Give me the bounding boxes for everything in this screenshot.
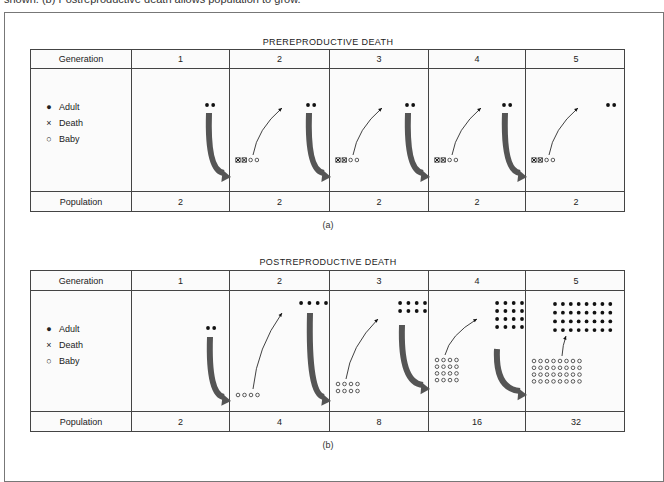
generation-5-diagram <box>532 302 612 383</box>
adult-dot <box>601 302 605 306</box>
big-arrowhead-icon <box>221 170 231 182</box>
adult-dot <box>407 309 411 313</box>
baby-circle <box>571 380 575 384</box>
baby-circle <box>565 373 569 377</box>
population-row: Population22222 <box>31 192 624 212</box>
population-row: Population2481632 <box>31 412 624 432</box>
reproduction-arrow-line <box>549 108 578 155</box>
adult-dot <box>423 309 427 313</box>
baby-circle <box>442 372 446 376</box>
baby-circle <box>552 373 556 377</box>
adult-dot <box>512 325 516 329</box>
panel-a-table: Generation12345 ●Adult×Death○Baby Popula… <box>30 49 625 212</box>
baby-circle <box>552 380 556 384</box>
generation-1-diagram <box>205 103 231 182</box>
baby-circle <box>349 158 353 162</box>
panel-b-label: (b) <box>30 440 626 450</box>
baby-circle <box>571 359 575 363</box>
death-cross-icon <box>236 158 240 162</box>
adult-dot <box>212 326 216 330</box>
baby-circle <box>435 372 439 376</box>
adult-dot <box>577 328 581 332</box>
adult-dot <box>608 328 612 332</box>
baby-circle <box>355 158 359 162</box>
population-value: 4 <box>230 412 330 432</box>
baby-circle <box>558 366 562 370</box>
adult-dot <box>423 301 427 305</box>
baby-circle <box>435 378 439 382</box>
baby-circle <box>571 366 575 370</box>
baby-circle <box>545 373 549 377</box>
adult-dot <box>553 302 557 306</box>
baby-circle <box>545 380 549 384</box>
generation-4-diagram <box>435 301 527 400</box>
baby-circle <box>435 358 439 362</box>
baby-circle <box>551 158 555 162</box>
population-diagram <box>31 69 626 192</box>
baby-circle <box>442 378 446 382</box>
generation-header-label: Generation <box>31 271 132 290</box>
baby-circle <box>249 158 253 162</box>
generation-transition-arrow <box>505 113 520 173</box>
generation-1-diagram <box>206 326 231 406</box>
adult-dot <box>561 320 565 324</box>
panel-b-table: Generation12345 ●Adult×Death○Baby Popula… <box>30 270 625 432</box>
population-value: 16 <box>429 412 526 432</box>
adult-dot <box>205 103 209 107</box>
death-cross-icon <box>532 158 536 162</box>
death-cross-icon <box>441 158 445 162</box>
population-value: 2 <box>429 192 526 212</box>
baby-circle <box>255 158 259 162</box>
big-arrowhead-icon <box>221 394 231 406</box>
adult-dot <box>561 311 565 315</box>
adult-dot <box>495 325 499 329</box>
adult-dot <box>569 302 573 306</box>
baby-circle <box>249 393 253 397</box>
baby-circle <box>578 366 582 370</box>
adult-dot <box>561 328 565 332</box>
adult-dot <box>299 301 303 305</box>
adult-dot <box>520 301 524 305</box>
baby-circle <box>565 359 569 363</box>
adult-dot <box>593 328 597 332</box>
big-arrowhead-icon <box>518 388 527 400</box>
adult-dot <box>308 301 312 305</box>
generation-transition-arrow <box>310 313 324 397</box>
population-value: 8 <box>330 412 429 432</box>
adult-dot <box>553 320 557 324</box>
baby-circle <box>356 389 360 393</box>
adult-dot <box>312 103 316 107</box>
generation-number: 3 <box>330 50 429 68</box>
baby-circle <box>532 380 536 384</box>
baby-circle <box>349 389 353 393</box>
big-arrowhead-icon <box>421 382 430 394</box>
adult-dot <box>512 301 516 305</box>
adult-dot <box>608 311 612 315</box>
population-label: Population <box>31 192 132 212</box>
baby-circle <box>435 365 439 369</box>
baby-circle <box>336 389 340 393</box>
baby-circle <box>552 366 556 370</box>
adult-dot <box>495 317 499 321</box>
adult-dot <box>495 301 499 305</box>
baby-circle <box>448 365 452 369</box>
population-value: 2 <box>132 412 230 432</box>
population-diagram <box>31 291 626 412</box>
adult-dot <box>612 103 616 107</box>
adult-dot <box>411 103 415 107</box>
adult-dot <box>316 301 320 305</box>
baby-circle <box>455 372 459 376</box>
generation-number: 1 <box>132 50 230 68</box>
adult-dot <box>495 309 499 313</box>
baby-circle <box>578 373 582 377</box>
arrowhead-icon <box>278 313 282 317</box>
baby-circle <box>565 380 569 384</box>
adult-dot <box>585 311 589 315</box>
adult-dot <box>561 302 565 306</box>
baby-circle <box>256 393 260 397</box>
baby-circle <box>578 359 582 363</box>
panel-a-label: (a) <box>30 220 626 230</box>
adult-dot <box>508 103 512 107</box>
baby-circle <box>455 378 459 382</box>
generation-transition-arrow <box>210 337 224 397</box>
